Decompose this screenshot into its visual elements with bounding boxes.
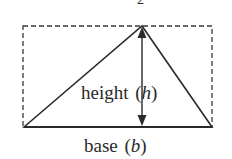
height-label-symbol: h <box>142 82 152 103</box>
height-label-close-paren: ) <box>151 82 157 104</box>
height-arrow-down-icon <box>138 115 147 126</box>
base-label: base (b) <box>84 135 147 157</box>
dashed-bounding-rectangle <box>23 26 212 127</box>
base-label-word: base <box>84 135 118 156</box>
height-label-word: height <box>81 82 129 103</box>
base-label-symbol: b <box>131 135 141 156</box>
base-label-close-paren: ) <box>140 135 146 157</box>
triangle <box>24 26 212 127</box>
triangle-area-diagram: 2 height (h) base (b) <box>0 0 232 159</box>
height-label: height (h) <box>81 82 157 104</box>
top-partial-label: 2 <box>137 0 144 7</box>
